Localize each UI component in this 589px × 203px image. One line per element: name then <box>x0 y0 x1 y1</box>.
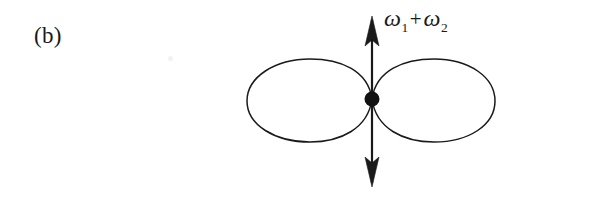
center-node <box>365 92 380 107</box>
mode-frequency-label: ω1+ω2 <box>384 6 447 30</box>
omega-2-subscript: 2 <box>441 20 448 35</box>
right-lobe <box>372 59 495 142</box>
left-lobe <box>247 59 372 142</box>
omega-1-subscript: 1 <box>401 20 408 35</box>
omega-2-symbol: ω <box>424 5 441 31</box>
figure-panel-b: (b) ω1+ω2 <box>0 0 589 203</box>
plus-operator: + <box>408 7 424 31</box>
omega-1-symbol: ω <box>384 5 401 31</box>
lemniscate-diagram <box>0 0 589 203</box>
